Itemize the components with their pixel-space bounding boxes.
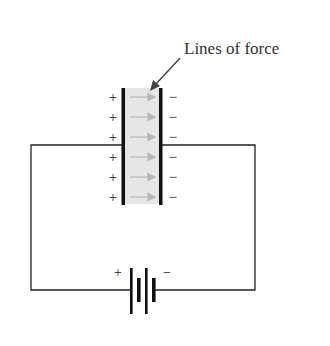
battery-short-plate — [152, 278, 156, 302]
plus-sign: + — [109, 109, 117, 125]
battery-negative-label: − — [163, 265, 171, 280]
positive-charges: + + + + + + — [109, 89, 117, 205]
negative-charges: − − − − − − — [169, 89, 177, 205]
capacitor-circuit-diagram: + + + + + + − − − − − − Lines of force +… — [0, 0, 330, 346]
lines-of-force-label: Lines of force — [184, 39, 279, 58]
minus-sign: − — [169, 109, 177, 125]
minus-sign: − — [169, 129, 177, 145]
pointer-line — [156, 58, 180, 84]
battery-long-plate — [130, 268, 133, 314]
minus-sign: − — [169, 169, 177, 185]
capacitor-plate-positive — [122, 88, 126, 205]
minus-sign: − — [169, 149, 177, 165]
plus-sign: + — [109, 129, 117, 145]
battery-positive-label: + — [114, 265, 122, 280]
minus-sign: − — [169, 89, 177, 105]
plus-sign: + — [109, 189, 117, 205]
plus-sign: + — [109, 149, 117, 165]
field-region — [125, 88, 159, 204]
capacitor-plate-negative — [159, 88, 163, 205]
battery — [130, 268, 156, 314]
battery-long-plate — [145, 268, 148, 314]
annotation-pointer — [150, 58, 180, 91]
minus-sign: − — [169, 189, 177, 205]
battery-short-plate — [137, 278, 141, 302]
plus-sign: + — [109, 169, 117, 185]
plus-sign: + — [109, 89, 117, 105]
